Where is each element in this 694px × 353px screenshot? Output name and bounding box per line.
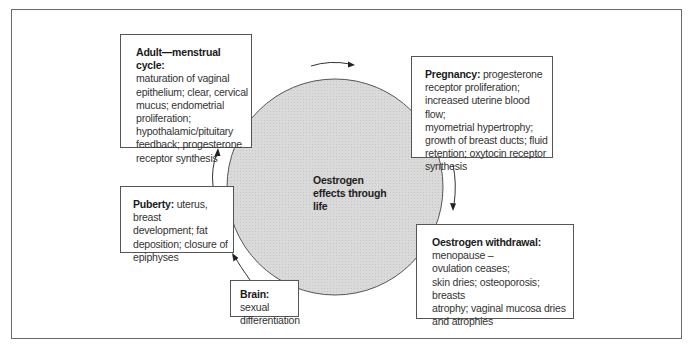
stage-text-line: development; fat	[133, 224, 233, 237]
stage-text-line: feedback; progesterone	[136, 138, 251, 151]
stage-text-line: mucus; endometrial	[136, 99, 251, 112]
center-label-line: effects through	[313, 187, 386, 200]
stage-text-line: maturation of vaginal	[136, 72, 251, 85]
stage-text-line: hypothalamic/pituitary	[136, 125, 251, 138]
stage-text-line: receptor synthesis	[136, 152, 251, 165]
stage-heading: Brain:	[240, 288, 269, 300]
stage-box-brain: Brain: sexual differentiation	[230, 280, 299, 317]
stage-box-withdrawal: Oestrogen withdrawal: menopause – ovulat…	[416, 224, 574, 319]
stage-heading-rest: sexual	[240, 301, 269, 313]
stage-heading: Adult—menstrual cycle:	[136, 46, 251, 72]
stage-text-line: menopause –	[432, 249, 573, 262]
stage-heading: Puberty:	[133, 198, 174, 210]
arrow-brain-to-puberty	[232, 253, 250, 280]
stage-text-line: and atrophies	[432, 315, 573, 328]
stage-box-puberty: Puberty: uterus, breast development; fat…	[120, 186, 234, 253]
arrow-adult-to-pregnancy	[311, 62, 355, 68]
stage-first-line: Puberty: uterus, breast	[133, 198, 233, 224]
stage-text-line: retention; oxytocin receptor	[425, 147, 552, 160]
stage-text-line: receptor proliferation;	[425, 81, 552, 94]
stage-first-line: Pregnancy: progesterone	[425, 68, 552, 81]
stage-heading-rest: progesterone	[480, 68, 542, 80]
stage-text-line: growth of breast ducts; fluid	[425, 134, 552, 147]
stage-first-line: Brain: sexual	[240, 288, 298, 314]
stage-text-line: synthesis	[425, 160, 552, 173]
center-label-line: life	[313, 200, 386, 213]
stage-text-line: proliferation;	[136, 112, 251, 125]
stage-text-line: skin dries; osteoporosis; breasts	[432, 276, 573, 302]
stage-text-line: ovulation ceases;	[432, 262, 573, 275]
stage-text-line: deposition; closure of	[133, 238, 233, 251]
stage-box-pregnancy: Pregnancy: progesterone receptor prolife…	[411, 56, 553, 158]
center-label-line: Oestrogen	[313, 174, 386, 187]
stage-text-line: myometrial hypertrophy;	[425, 121, 552, 134]
stage-heading: Pregnancy:	[425, 68, 480, 80]
stage-text-line: epithelium; clear, cervical	[136, 86, 251, 99]
stage-heading: Oestrogen withdrawal:	[432, 236, 573, 249]
center-label: Oestrogen effects through life	[313, 174, 386, 213]
stage-text-line: epiphyses	[133, 251, 233, 264]
stage-text-line: increased uterine blood flow;	[425, 94, 552, 120]
stage-text-line: differentiation	[240, 314, 298, 327]
stage-text-line: atrophy; vaginal mucosa dries	[432, 302, 573, 315]
stage-box-adult: Adult—menstrual cycle: maturation of vag…	[120, 34, 252, 148]
